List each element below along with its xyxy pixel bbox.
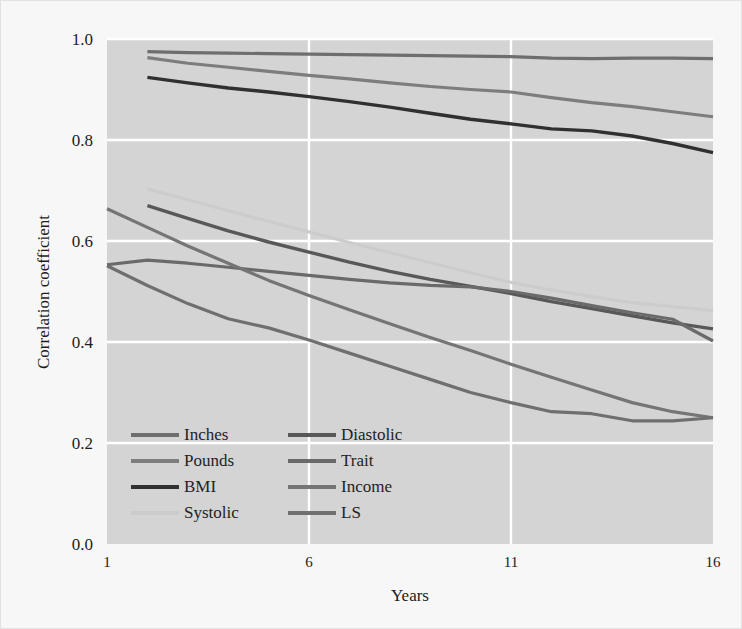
correlation-line-chart: 0.00.20.40.60.81.0 161116 Correlation co… [1, 1, 742, 629]
legend-label-ls: LS [341, 503, 361, 522]
legend-label-pounds: Pounds [184, 451, 234, 470]
x-tick-label: 11 [504, 554, 518, 570]
chart-figure: 0.00.20.40.60.81.0 161116 Correlation co… [0, 0, 742, 629]
y-tick-label: 0.2 [72, 434, 93, 453]
y-tick-label: 0.8 [72, 131, 93, 150]
legend-label-diastolic: Diastolic [341, 425, 403, 444]
y-axis-title: Correlation coefficient [34, 215, 53, 369]
x-axis-tick-labels: 161116 [103, 554, 721, 570]
x-tick-label: 6 [305, 554, 313, 570]
legend-label-income: Income [341, 477, 392, 496]
y-tick-label: 0.4 [72, 333, 94, 352]
y-tick-label: 0.6 [72, 232, 93, 251]
x-tick-label: 1 [103, 554, 111, 570]
legend-label-bmi: BMI [184, 477, 216, 496]
y-axis-tick-labels: 0.00.20.40.60.81.0 [72, 30, 94, 554]
y-tick-label: 0.0 [72, 535, 93, 554]
x-axis-title: Years [391, 586, 429, 605]
y-tick-label: 1.0 [72, 30, 93, 49]
legend-label-trait: Trait [341, 451, 374, 470]
legend-label-inches: Inches [184, 425, 228, 444]
legend-label-systolic: Systolic [184, 503, 239, 522]
x-tick-label: 16 [706, 554, 722, 570]
